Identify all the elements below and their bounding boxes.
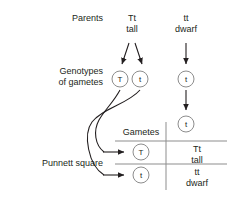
arrow-parent-tt-to-gamete-t — [135, 43, 142, 64]
punnett-offspring-cell-1: Tt tall — [191, 144, 203, 165]
parent-1-phenotype: tall — [126, 24, 138, 35]
gamete-circle-T: T — [112, 71, 129, 88]
offspring-2-genotype: tt — [186, 167, 208, 178]
parent-1-genotype: Tt — [128, 13, 136, 24]
punnett-column-gamete-circle: t — [178, 116, 195, 133]
genetics-diagram: Parents Genotypes of gametes Punnett squ… — [0, 0, 227, 208]
punnett-row-gamete-circle-T: T — [133, 144, 150, 161]
parent-2-phenotype: dwarf — [175, 24, 197, 35]
offspring-1-genotype: Tt — [191, 144, 203, 155]
arrow-parent-tt-to-gamete-T — [122, 43, 129, 64]
punnett-gametes-header: Gametes — [123, 127, 160, 138]
offspring-2-phenotype: dwarf — [186, 178, 208, 189]
offspring-1-phenotype: tall — [191, 155, 203, 166]
punnett-offspring-cell-2: tt dwarf — [186, 167, 208, 188]
gamete-circle-t: t — [132, 71, 149, 88]
label-parents: Parents — [72, 13, 103, 24]
curve-gamete-T-to-punnett-row-1 — [96, 90, 124, 152]
label-genotypes-of-gametes-line2: of gametes — [58, 77, 103, 88]
label-genotypes-of-gametes-line1: Genotypes — [59, 66, 103, 77]
punnett-row-gamete-circle-t: t — [133, 167, 150, 184]
parent-2-genotype: tt — [183, 13, 188, 24]
gamete-circle-t-dwarf: t — [178, 71, 195, 88]
label-punnett-square: Punnett square — [42, 158, 103, 169]
